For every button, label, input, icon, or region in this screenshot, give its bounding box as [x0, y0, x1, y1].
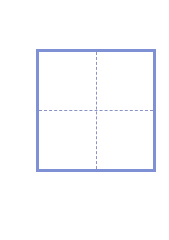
horizontal-dashed-divider: [39, 110, 153, 111]
grid-quadrant-icon: [36, 49, 156, 172]
